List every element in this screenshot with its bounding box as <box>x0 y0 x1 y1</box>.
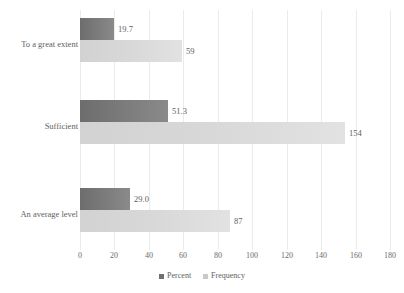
bar-group: 29.0 87 <box>80 188 390 232</box>
gridline <box>390 10 391 250</box>
category-label: To a great extent <box>0 40 78 49</box>
bar-percent <box>80 18 114 40</box>
x-tick: 0 <box>78 252 82 260</box>
x-tick: 160 <box>350 252 362 260</box>
bar-value-percent: 51.3 <box>172 107 187 116</box>
legend-swatch-icon <box>203 274 208 279</box>
bar-value-percent: 29.0 <box>134 195 149 204</box>
legend-item-frequency[interactable]: Frequency <box>203 272 245 280</box>
category-axis: To a great extent Sufficient An average … <box>0 10 78 250</box>
bar-value-frequency: 87 <box>234 217 243 226</box>
legend-label: Frequency <box>211 272 245 280</box>
bar-value-frequency: 59 <box>186 47 195 56</box>
x-tick: 20 <box>110 252 118 260</box>
bar-chart: To a great extent Sufficient An average … <box>0 0 404 293</box>
chart-legend: Percent Frequency <box>0 272 404 280</box>
legend-item-percent[interactable]: Percent <box>159 272 191 280</box>
bar-group: 19.7 59 <box>80 18 390 62</box>
bar-frequency <box>80 210 230 232</box>
bar-group: 51.3 154 <box>80 100 390 144</box>
x-tick: 120 <box>281 252 293 260</box>
x-tick: 40 <box>145 252 153 260</box>
x-tick: 80 <box>214 252 222 260</box>
x-tick: 60 <box>179 252 187 260</box>
bar-frequency <box>80 122 345 144</box>
x-tick: 100 <box>246 252 258 260</box>
x-tick: 180 <box>384 252 396 260</box>
legend-swatch-icon <box>159 274 164 279</box>
legend-label: Percent <box>167 272 191 280</box>
x-axis: 0 20 40 60 80 100 120 140 160 180 <box>80 250 390 266</box>
x-tick: 140 <box>315 252 327 260</box>
bar-value-percent: 19.7 <box>118 25 133 34</box>
bar-value-frequency: 154 <box>349 129 362 138</box>
bar-percent <box>80 100 168 122</box>
category-label: An average level <box>0 210 78 219</box>
bar-percent <box>80 188 130 210</box>
bar-frequency <box>80 40 182 62</box>
category-label: Sufficient <box>0 122 78 131</box>
plot-area: 19.7 59 51.3 154 29.0 87 <box>80 10 390 250</box>
